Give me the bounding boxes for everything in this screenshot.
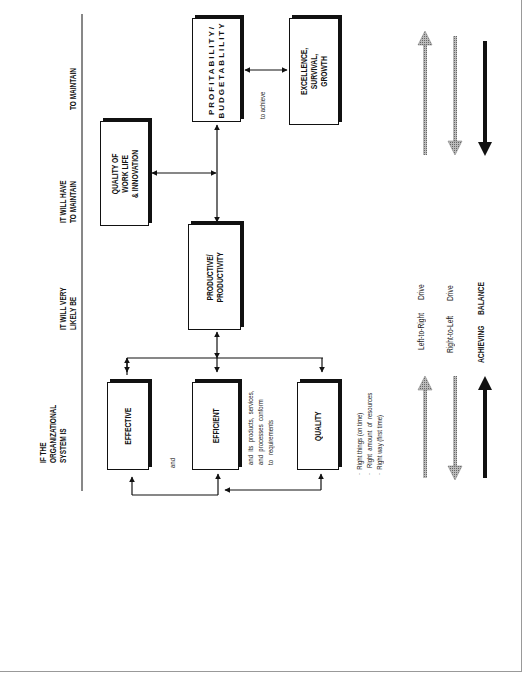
box-quality-of-work-life: QUALITY OF WORK LIFE & INNOVATION	[100, 121, 149, 226]
box-effective: EFFECTIVE	[107, 382, 149, 470]
box-quality: QUALITY	[297, 382, 339, 470]
right-things-bullets: · Right things (on time) · Right amount …	[355, 393, 385, 475]
box-excellence: EXCELLENCE, SURVIVAL, GROWTH	[289, 18, 339, 125]
box-quality-label: QUALITY	[313, 411, 323, 441]
legend-balance: BALANCE	[476, 282, 486, 315]
box-excellence-label: EXCELLENCE, SURVIVAL, GROWTH	[299, 48, 329, 95]
box-productive-label: PRODUCTIVE/ PRODUCTIVITY	[205, 252, 225, 302]
legend-left-to-right-drive: Drive	[416, 284, 426, 300]
box-efficient-label: EFFICIENT	[211, 409, 221, 444]
and-label: and	[168, 458, 178, 468]
legend-achieving: ACHIEVING	[476, 325, 486, 363]
legend-right-to-left-drive: Drive	[445, 285, 455, 301]
rotated-diagram: IF THE ORGANIZATIONAL SYSTEM IS IT WILL …	[0, 0, 523, 673]
conform-note: and its products, services, and processe…	[246, 391, 276, 465]
box-qowl-label: QUALITY OF WORK LIFE & INNOVATION	[110, 149, 140, 197]
box-profitability: PROFITABILITY/ BUDGETABLILITY	[192, 18, 241, 122]
box-efficient: EFFICIENT	[192, 382, 239, 470]
legend-left-to-right: Left-to-Right	[416, 313, 426, 350]
legend-right-to-left: Right-to-Left	[445, 316, 455, 353]
to-achieve-label: to achieve	[258, 92, 268, 119]
box-productive: PRODUCTIVE/ PRODUCTIVITY	[188, 224, 241, 330]
box-effective-label: EFFECTIVE	[123, 407, 133, 444]
box-profitability-label: PROFITABILITY/ BUDGETABLILITY	[207, 21, 227, 118]
